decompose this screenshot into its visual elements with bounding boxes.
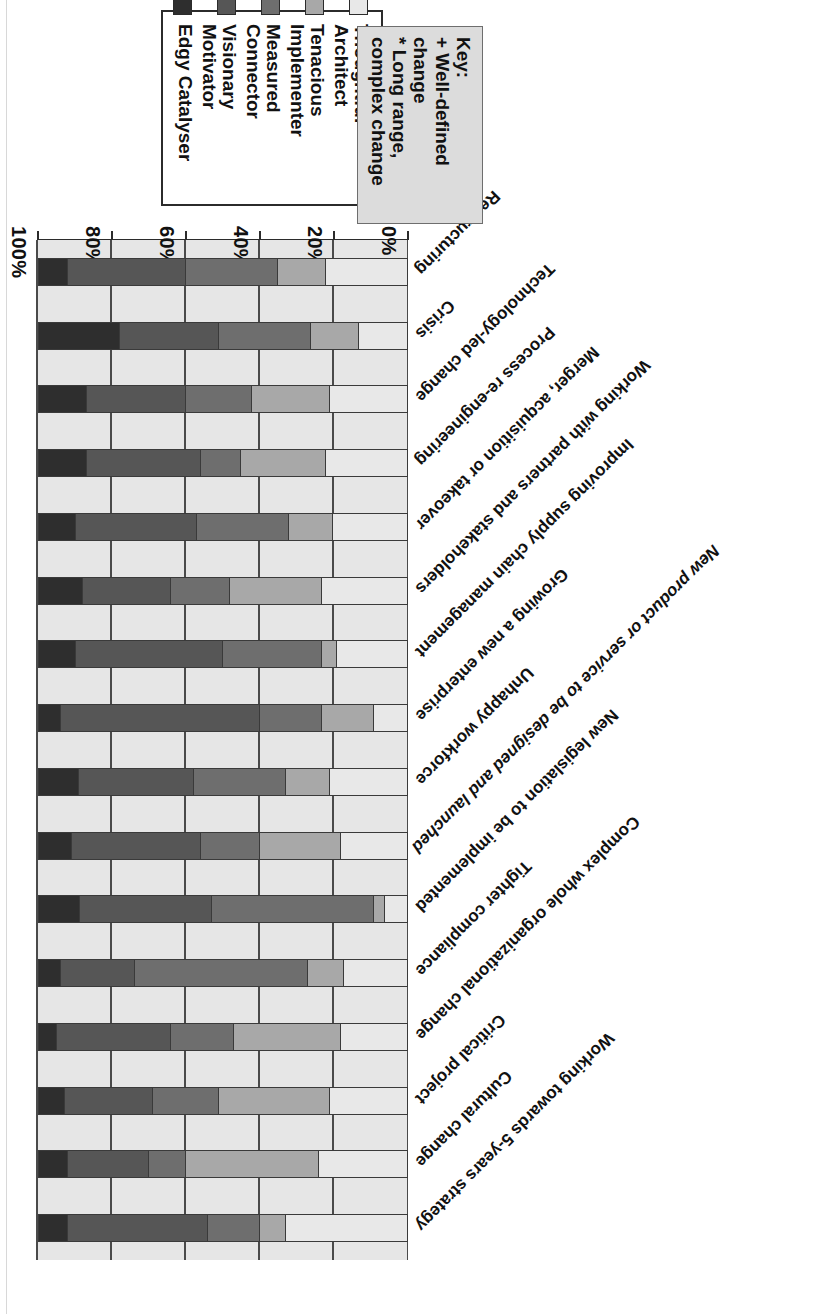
bar-segment: [57, 1024, 171, 1050]
bar-segment: [374, 896, 385, 922]
category-label: Critical project: [411, 795, 724, 1108]
legend-swatch-icon: [261, 0, 280, 15]
bar-segment: [39, 578, 83, 604]
bar-segment: [286, 1215, 407, 1241]
bar-segment: [172, 578, 231, 604]
x-axis-tick: [37, 231, 38, 240]
bar-segment: [359, 323, 407, 349]
key-line-well-defined: + Well-defined change: [410, 37, 453, 215]
bar-segment: [201, 450, 241, 476]
bar-segment: [72, 833, 201, 859]
bar-row: [38, 640, 408, 668]
bar-segment: [260, 833, 341, 859]
legend-swatch-icon: [305, 0, 324, 15]
bar-segment: [322, 641, 337, 667]
bar-segment: [39, 450, 87, 476]
bar-segment: [87, 386, 186, 412]
bar-segment: [330, 1088, 407, 1114]
bar-segment: [308, 960, 345, 986]
bar-row: [38, 832, 408, 860]
bar-segment: [39, 386, 87, 412]
bar-segment: [186, 259, 278, 285]
bar-segment: [39, 833, 72, 859]
bar-row: [38, 959, 408, 987]
category-label: Cultural change: [411, 859, 724, 1172]
bar-segment: [39, 1215, 68, 1241]
legend-swatch-icon: [173, 0, 192, 15]
bar-segment: [76, 514, 197, 540]
bar-segment: [385, 896, 407, 922]
bar-segment: [311, 323, 359, 349]
bar-segment: [83, 578, 171, 604]
bar-segment: [219, 1088, 329, 1114]
bar-segment: [341, 1024, 407, 1050]
category-label: Unhappy workforce: [411, 476, 724, 789]
bar-row: [38, 704, 408, 732]
bar-segment: [39, 1088, 65, 1114]
legend-item: Tenacious Implementer: [287, 0, 327, 178]
bar-segment: [186, 386, 252, 412]
bar-segment: [374, 705, 407, 731]
bar-segment: [201, 833, 260, 859]
bar-segment: [341, 833, 407, 859]
legend-item-label: Edgy Catalyser: [175, 24, 195, 161]
bar-segment: [80, 896, 212, 922]
bar-segment: [76, 641, 223, 667]
bar-segment: [278, 259, 326, 285]
bar-segment: [149, 1151, 186, 1177]
bar-segment: [230, 578, 322, 604]
bar-row: [38, 1150, 408, 1178]
bar-row: [38, 449, 408, 477]
bar-row: [38, 513, 408, 541]
bar-segment: [241, 450, 326, 476]
bar-segment: [333, 514, 407, 540]
x-axis-tick: [333, 231, 334, 240]
category-label: Tighter compliance: [411, 668, 724, 981]
bar-segment: [208, 1215, 260, 1241]
bar-segment: [65, 1088, 153, 1114]
x-axis-tick: [111, 231, 112, 240]
legend-item: Measured Connector: [243, 0, 283, 178]
bar-segment: [39, 769, 79, 795]
bar-segment: [234, 1024, 341, 1050]
bar-segment: [344, 960, 407, 986]
bar-row: [38, 1023, 408, 1051]
bar-segment: [326, 259, 407, 285]
legend-item-label: Measured Connector: [243, 24, 283, 178]
bar-segment: [80, 769, 194, 795]
bar-row: [38, 1214, 408, 1242]
key-line-long-range: * Long range, complex change: [368, 37, 411, 215]
bar-segment: [68, 1151, 149, 1177]
bar-row: [38, 258, 408, 286]
bar-segment: [39, 514, 76, 540]
x-axis-tick: [259, 231, 260, 240]
category-label: Growing a new enterprise: [411, 413, 724, 726]
category-label: Improving supply chain management: [411, 349, 724, 662]
bar-segment: [39, 259, 68, 285]
bar-segment: [120, 323, 219, 349]
category-label: Complex whole organizational change: [411, 731, 724, 1044]
bar-segment: [326, 450, 407, 476]
bar-segment: [337, 641, 407, 667]
bar-segment: [289, 514, 333, 540]
bar-row: [38, 577, 408, 605]
bar-segment: [319, 1151, 407, 1177]
bar-row: [38, 385, 408, 413]
bar-segment: [68, 1215, 208, 1241]
legend: Thoughtful ArchitectTenacious Implemente…: [161, 10, 383, 206]
bar-row: [38, 895, 408, 923]
bar-segment: [135, 960, 308, 986]
legend-swatch-icon: [349, 0, 368, 15]
bar-segment: [330, 769, 407, 795]
legend-swatch-icon: [217, 0, 236, 15]
category-label: Working towards 5-years strategy: [411, 923, 724, 1236]
bar-segment: [153, 1088, 219, 1114]
bar-row: [38, 768, 408, 796]
category-label: New legislation to be implemented: [411, 604, 724, 917]
bar-segment: [61, 705, 260, 731]
bar-segment: [87, 450, 201, 476]
bar-segment: [286, 769, 330, 795]
bar-segment: [68, 259, 186, 285]
bar-row: [38, 1087, 408, 1115]
bar-segment: [223, 641, 322, 667]
